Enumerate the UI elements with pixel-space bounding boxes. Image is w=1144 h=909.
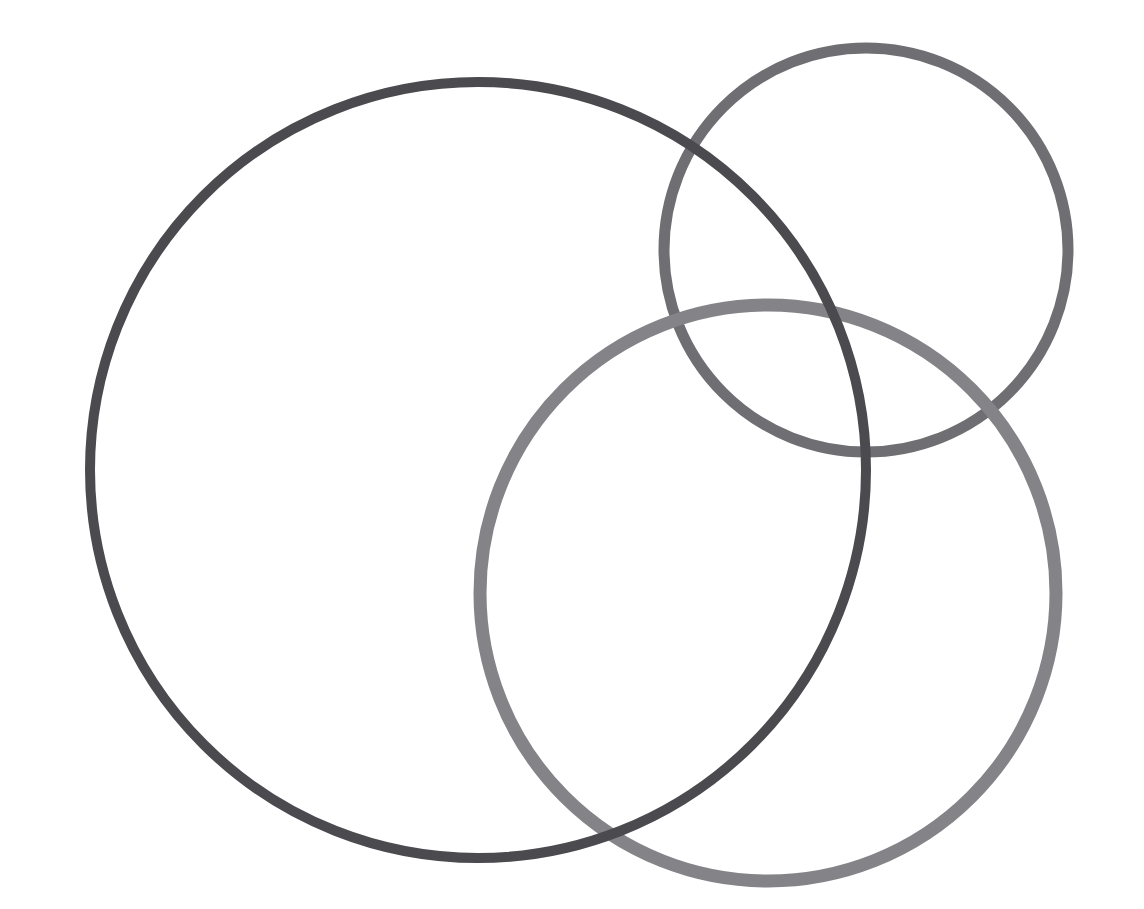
canvas-background xyxy=(0,0,1144,909)
figure-canvas xyxy=(0,0,1144,909)
circles-diagram xyxy=(0,0,1144,909)
